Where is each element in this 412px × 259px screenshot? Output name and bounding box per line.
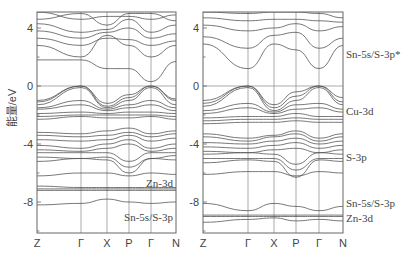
kpoint-label: Γ bbox=[245, 237, 251, 249]
band-line bbox=[203, 160, 343, 177]
band-line bbox=[37, 173, 176, 176]
band-line bbox=[37, 159, 176, 174]
band-line bbox=[37, 156, 176, 168]
band-line bbox=[37, 117, 176, 120]
band-line bbox=[203, 134, 343, 141]
bands bbox=[37, 12, 176, 205]
band-line bbox=[203, 121, 343, 124]
y-tick-label: -4 bbox=[189, 138, 199, 150]
band-line bbox=[37, 60, 176, 82]
y-tick-label: 0 bbox=[193, 80, 199, 92]
y-tick-label: -8 bbox=[23, 196, 33, 208]
kpoint-label: P bbox=[292, 237, 299, 249]
band-line bbox=[37, 12, 176, 19]
y-tick-label: 4 bbox=[193, 22, 199, 34]
band-line bbox=[203, 114, 343, 118]
orbital-annotation: Zn-3d bbox=[346, 212, 373, 224]
band-line bbox=[37, 199, 176, 205]
orbital-annotation: Sn-5s/S-3p bbox=[124, 211, 173, 223]
left-band-panel: 40-4-8ZΓXPΓNZn-3dSn-5s/S-3p bbox=[23, 12, 180, 249]
y-tick-label: -4 bbox=[23, 138, 33, 150]
band-line bbox=[37, 112, 176, 113]
band-structure-figure: 40-4-8ZΓXPΓNZn-3dSn-5s/S-3p 40-4-8ZΓXPΓN… bbox=[0, 0, 412, 259]
kpoint-label: N bbox=[339, 237, 347, 249]
orbital-annotation: Cu-3d bbox=[346, 105, 374, 117]
kpoint-label: X bbox=[103, 237, 111, 249]
band-line bbox=[37, 38, 176, 45]
band-line bbox=[203, 148, 343, 152]
kpoint-label: Γ bbox=[316, 237, 322, 249]
kpoint-label: Γ bbox=[148, 237, 154, 249]
bands bbox=[203, 12, 343, 222]
kpoint-label: N bbox=[172, 237, 180, 249]
orbital-annotation: Zn-3d bbox=[146, 177, 173, 189]
band-line bbox=[203, 18, 343, 22]
band-line bbox=[203, 218, 343, 222]
kpoint-label: P bbox=[125, 237, 132, 249]
kpoint-label: Z bbox=[200, 237, 207, 249]
kpoint-label: Z bbox=[34, 237, 41, 249]
orbital-annotation: Sn-5s/S-3p bbox=[346, 197, 395, 209]
kpoint-label: X bbox=[270, 237, 278, 249]
kpoint-label: Γ bbox=[78, 237, 84, 249]
band-line bbox=[203, 12, 343, 18]
band-line bbox=[203, 24, 343, 31]
band-line bbox=[203, 172, 343, 176]
orbital-annotation: S-3p bbox=[346, 151, 367, 163]
band-structure-svg: 40-4-8ZΓXPΓNZn-3dSn-5s/S-3p 40-4-8ZΓXPΓN… bbox=[0, 0, 412, 259]
band-line bbox=[37, 128, 176, 134]
y-axis-label: 能量/eV bbox=[5, 88, 18, 127]
right-band-panel: 40-4-8ZΓXPΓNSn-5s/S-3p*Cu-3dS-3pSn-5s/S-… bbox=[189, 12, 400, 249]
band-line bbox=[203, 118, 343, 121]
band-line bbox=[37, 144, 176, 151]
orbital-annotation: Sn-5s/S-3p* bbox=[346, 48, 400, 60]
y-tick-label: 0 bbox=[27, 80, 33, 92]
y-tick-label: 4 bbox=[27, 22, 33, 34]
band-line bbox=[203, 203, 343, 210]
band-line bbox=[203, 32, 343, 48]
band-line bbox=[37, 19, 176, 32]
y-tick-label: -8 bbox=[189, 196, 199, 208]
